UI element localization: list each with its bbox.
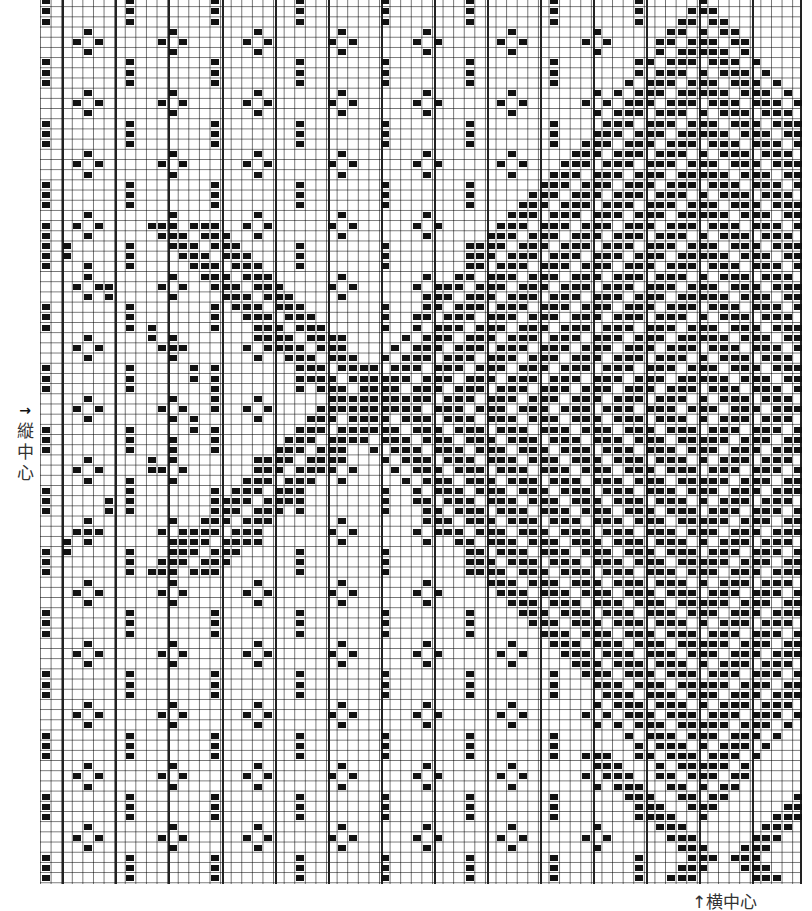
horizontal-center-label: ↑横中心	[692, 888, 757, 911]
bold-gridline	[540, 0, 542, 884]
bold-gridline	[62, 0, 64, 884]
bold-gridline	[275, 0, 277, 884]
vertical-center-char-3: 心	[14, 463, 36, 484]
bold-gridline	[115, 0, 117, 884]
bold-gridline	[222, 0, 224, 884]
vertical-center-char-2: 中	[14, 442, 36, 463]
vertical-center-char-1: 縦	[14, 421, 36, 442]
vertical-center-label: → 縦 中 心	[14, 400, 36, 484]
right-arrow-icon: →	[14, 400, 36, 421]
